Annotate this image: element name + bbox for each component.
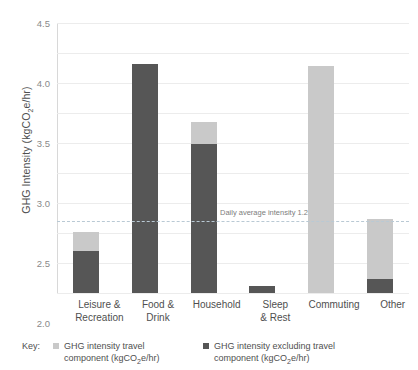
gridline: 2.5: [57, 143, 409, 144]
bar-group[interactable]: [132, 64, 158, 293]
gridline: 0.0: [57, 293, 409, 294]
legend-item-travel-component: GHG intensity travel component (kgCO2e/h…: [53, 341, 203, 367]
gridline: 1.5: [57, 203, 409, 204]
gridline: 3.0: [57, 113, 409, 114]
bar-segment-excluding-travel[interactable]: [367, 279, 393, 293]
y-tick-label: 2.0: [37, 318, 50, 329]
bar-segment-travel-component[interactable]: [308, 66, 334, 293]
x-axis-category-label: Other: [353, 299, 418, 312]
y-axis-title: GHG Intensity (kgCO2e/hr): [20, 35, 34, 265]
gridline: 4.5: [57, 23, 409, 24]
gridline: 3.5: [57, 83, 409, 84]
y-tick-label: 3.5: [37, 138, 50, 149]
bar-segment-excluding-travel[interactable]: [191, 144, 217, 293]
gridline: 0.5: [57, 263, 409, 264]
legend-label-travel-component: GHG intensity travel component (kgCO2e/h…: [64, 341, 159, 367]
bar-group[interactable]: [308, 66, 334, 293]
legend-line3: e/hr): [141, 353, 160, 363]
bar-group[interactable]: [73, 232, 99, 293]
gridline: 2.0: [57, 173, 409, 174]
legend-line2: component (kgCO: [64, 353, 137, 363]
y-axis-line: [57, 23, 58, 293]
gridline: 4.0: [57, 53, 409, 54]
legend-line3: e/hr): [291, 353, 310, 363]
bar-segment-excluding-travel[interactable]: [249, 286, 275, 293]
bar-group[interactable]: [249, 286, 275, 293]
legend-swatch-light: [53, 343, 59, 349]
legend-item-excluding-travel: GHG intensity excluding travel component…: [203, 341, 335, 367]
legend-line2: component (kgCO: [214, 353, 287, 363]
legend-line1: GHG intensity excluding travel: [214, 341, 335, 351]
y-tick-label: 4.0: [37, 78, 50, 89]
legend-label-excluding-travel: GHG intensity excluding travel component…: [214, 341, 335, 367]
bar-segment-excluding-travel[interactable]: [132, 64, 158, 293]
y-tick-label: 4.5: [37, 18, 50, 29]
bar-segment-travel-component[interactable]: [191, 122, 217, 144]
y-tick-label: 2.5: [37, 258, 50, 269]
y-axis-title-suffix: e/hr): [20, 86, 32, 108]
bar-segment-travel-component[interactable]: [367, 219, 393, 279]
ghg-intensity-bar-chart: GHG Intensity (kgCO2e/hr) 0.00.51.01.52.…: [0, 0, 418, 370]
bar-group[interactable]: [367, 219, 393, 293]
y-axis-title-subscript: 2: [27, 109, 34, 113]
bar-segment-excluding-travel[interactable]: [73, 251, 99, 293]
y-tick-label: 3.0: [37, 198, 50, 209]
bar-group[interactable]: [191, 122, 217, 293]
bar-segment-travel-component[interactable]: [73, 232, 99, 251]
daily-average-intensity-label: Daily average intensity 1.2: [220, 208, 308, 217]
legend-line1: GHG intensity travel: [64, 341, 145, 351]
gridline: 1.0: [57, 233, 409, 234]
legend: Key: GHG intensity travel component (kgC…: [22, 341, 412, 367]
x-axis-category-label-line: Other: [353, 299, 418, 312]
legend-swatch-dark: [203, 343, 209, 349]
plot-area: 0.00.51.01.52.02.53.03.54.04.5 Daily ave…: [57, 23, 409, 293]
x-axis-category-label-line: & Rest: [235, 312, 315, 325]
legend-key-word: Key:: [22, 341, 40, 353]
x-axis-category-label-line: Drink: [118, 312, 198, 325]
daily-average-intensity-line: [57, 221, 409, 222]
y-axis-title-prefix: GHG Intensity (kgCO: [20, 113, 32, 214]
